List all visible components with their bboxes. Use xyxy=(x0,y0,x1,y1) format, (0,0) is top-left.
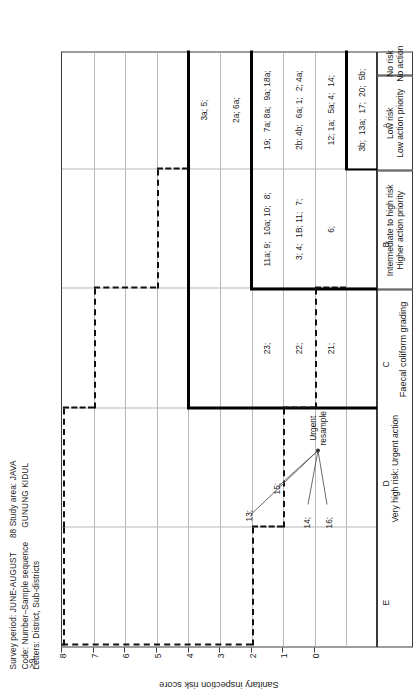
y-tick-4: 4 xyxy=(185,653,195,675)
y-tick-9: ≥9 xyxy=(27,658,37,680)
risk-boundary-very-high xyxy=(187,50,189,408)
gridline-h xyxy=(125,52,126,646)
risk-boundary-no-risk xyxy=(345,50,347,169)
region-text: GUNUNG KIDUL xyxy=(20,462,30,527)
point-label-15: 15; xyxy=(272,482,282,494)
cell-B-2: 3; 4; 1B; 11; 7; xyxy=(283,169,315,288)
y-tick-5: 5 xyxy=(153,653,163,675)
y-tick-3: 3 xyxy=(216,653,226,675)
urgent-dashed-lower-2 xyxy=(283,408,285,527)
leader-lines xyxy=(62,0,416,646)
gridline-v xyxy=(62,168,376,169)
gridline-h xyxy=(157,52,158,646)
legend-intermediate-risk: Intermediate to high risk Higher action … xyxy=(377,170,413,289)
urgent-dashed-lower-step-2 xyxy=(283,406,315,408)
cell-C-2: 22; xyxy=(283,288,315,407)
urgent-dashed-lower-step-1 xyxy=(252,525,284,527)
y-tick-7: 7 xyxy=(90,653,100,675)
y-tick-0: 0 xyxy=(311,653,321,675)
code-legend-text: Code: Number–Sample sequence xyxy=(20,541,30,669)
point-label-14: 14; xyxy=(302,516,312,528)
cell-B-1: 6; xyxy=(315,169,347,288)
cell-B-3: 11a; 9; 10a; 10; 8; xyxy=(252,169,284,288)
urgent-dashed-left xyxy=(62,643,252,645)
chart-stage: Survey period: JUNE-AUGUST88 Study area:… xyxy=(0,0,416,691)
gridline-h xyxy=(220,52,221,646)
urgent-dashed-top-2 xyxy=(63,408,65,527)
urgent-dashed-mid-1 xyxy=(94,288,96,407)
urgent-dashed-lower-3 xyxy=(315,288,317,407)
cell-A-0: 3b; 13a; 17; 20; 5b; xyxy=(346,50,378,169)
urgent-dashed-mid-2 xyxy=(157,169,159,288)
risk-boundary-intermediate xyxy=(250,50,252,288)
urgent-dashed-lower-step-3 xyxy=(315,286,347,288)
risk-boundary-no-risk-edge xyxy=(345,168,378,170)
urgent-dashed-step-3 xyxy=(157,167,188,169)
header-line-2: Code: Number–Sample sequenceGUNUNG KIDUL xyxy=(20,462,31,669)
cell-A-2: 2b; 4b; 6a; 1; 2; 4a; xyxy=(283,50,315,169)
urgent-resample-line-2: resample xyxy=(319,411,329,445)
y-tick-8: 8 xyxy=(58,653,68,675)
urgent-dashed-step-1 xyxy=(63,406,94,408)
gridline-h xyxy=(283,52,284,646)
point-label-13: 13; xyxy=(244,509,254,521)
survey-period-text: Survey period: JUNE-AUGUST xyxy=(8,552,18,669)
y-tick-6: 6 xyxy=(121,653,131,675)
letters-legend-text: Letters: District, Sub-districts xyxy=(31,560,41,669)
cell-C-1: 21; xyxy=(315,288,347,407)
point-label-16: 16; xyxy=(324,516,334,528)
risk-matrix-plot: 23; 22; 21; 11a; 9; 10a; 10; 8; 3; 4; 1B… xyxy=(61,51,377,647)
legend-low-risk: Low risk Low action priority xyxy=(377,75,413,170)
cell-A-1: 12; 1a; 5a; 4; 14; xyxy=(315,50,347,169)
urgent-resample-callout: Urgent resample xyxy=(309,411,328,445)
y-axis-title: Sanitary inspection risk score xyxy=(61,677,377,691)
legend-very-high-risk: Very high risk: Urgent action xyxy=(377,289,413,647)
study-area-text: 88 Study area: JAVA xyxy=(8,460,18,538)
cell-A-5: 3a; 5; xyxy=(188,50,220,169)
y-tick-1: 1 xyxy=(279,653,289,675)
urgent-dashed-lower-1 xyxy=(252,527,254,645)
legend-no-risk: No risk No action xyxy=(377,51,413,75)
urgent-dashed-top-1 xyxy=(63,527,65,645)
header-line-1: Survey period: JUNE-AUGUST88 Study area:… xyxy=(8,460,19,669)
cell-C-3: 23; xyxy=(252,288,284,407)
cell-A-3: 19; 7a; 8a; 9a; 18a; xyxy=(252,50,284,169)
y-tick-2: 2 xyxy=(248,653,258,675)
urgent-dashed-step-2 xyxy=(94,286,156,288)
cell-A-4: 2a; 6a; xyxy=(220,50,252,169)
header-line-3: Letters: District, Sub-districts xyxy=(31,560,42,669)
